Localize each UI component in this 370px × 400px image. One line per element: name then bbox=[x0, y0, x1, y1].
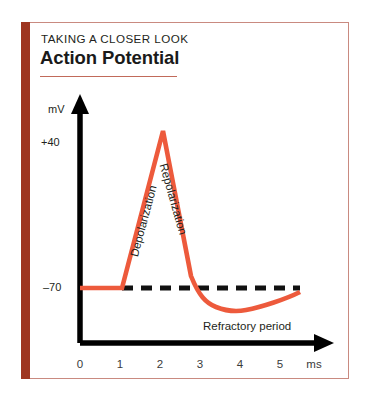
membrane-potential-curve bbox=[80, 131, 300, 311]
chart-svg bbox=[0, 0, 370, 400]
x-axis-arrowhead bbox=[314, 334, 334, 352]
action-potential-chart: mV +40 –70 0 1 2 3 4 5 ms Depolarization… bbox=[0, 0, 370, 400]
screenshot-root: TAKING A CLOSER LOOK Action Potential mV… bbox=[0, 0, 370, 400]
y-axis-arrowhead bbox=[71, 94, 89, 114]
x-tick-label-5: 5 bbox=[272, 358, 288, 370]
annotation-refractory-period: Refractory period bbox=[203, 320, 291, 332]
x-tick-label-3: 3 bbox=[192, 358, 208, 370]
y-axis-title: mV bbox=[48, 103, 65, 115]
x-tick-label-4: 4 bbox=[232, 358, 248, 370]
y-tick-label-plus40: +40 bbox=[41, 136, 60, 148]
x-tick-label-0: 0 bbox=[72, 358, 88, 370]
x-axis-unit-label: ms bbox=[302, 358, 326, 370]
y-tick-label-minus70: –70 bbox=[43, 281, 61, 293]
x-tick-label-2: 2 bbox=[152, 358, 168, 370]
x-tick-label-1: 1 bbox=[112, 358, 128, 370]
